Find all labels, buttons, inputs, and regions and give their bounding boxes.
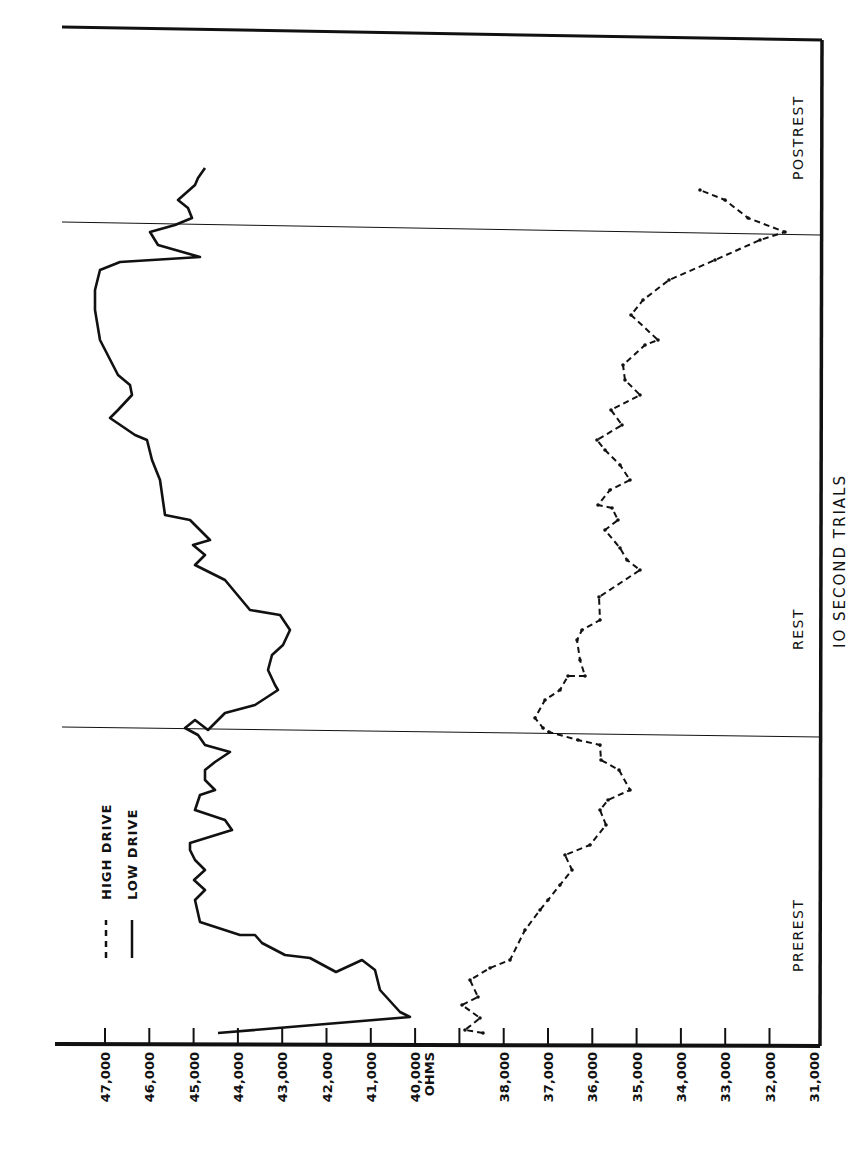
value-tick-label: 36,000: [585, 1052, 600, 1102]
data-point-marker: [618, 463, 622, 467]
value-tick-label: 38,000: [497, 1052, 512, 1102]
data-point-marker: [667, 278, 671, 282]
data-point-marker: [629, 313, 633, 317]
divider-prerest-rest: [62, 727, 820, 737]
value-tick-label: 34,000: [674, 1052, 689, 1102]
data-point-marker: [478, 1016, 482, 1020]
data-point-marker: [468, 978, 472, 982]
value-tick-label: 45,000: [187, 1052, 202, 1102]
data-point-marker: [606, 798, 610, 802]
data-point-marker: [580, 628, 584, 632]
data-point-marker: [597, 595, 601, 599]
value-axis-unit-label: OHMS: [422, 1052, 437, 1096]
data-point-marker: [620, 423, 624, 427]
value-tick-label: 33,000: [718, 1052, 733, 1102]
data-point-marker: [460, 1003, 464, 1007]
value-tick-label: 42,000: [320, 1052, 335, 1102]
data-point-marker: [538, 908, 542, 912]
data-point-marker: [638, 393, 642, 397]
frame-right-axis: [820, 40, 822, 1046]
data-point-marker: [547, 730, 551, 734]
phase-label-prerest: PREREST: [790, 898, 806, 972]
data-point-marker: [570, 868, 574, 872]
value-axis-tick-labels: 47,00046,00045,00044,00043,00042,00041,0…: [98, 1052, 822, 1102]
data-point-marker: [599, 758, 603, 762]
data-point-marker: [558, 883, 562, 887]
value-tick-label: 43,000: [275, 1052, 290, 1102]
series-high-drive-markers: [460, 188, 787, 1035]
data-point-marker: [609, 408, 613, 412]
data-point-marker: [603, 528, 607, 532]
legend-low-label: LOW DRIVE: [125, 809, 140, 900]
data-point-marker: [638, 568, 642, 572]
frame-left: [58, 27, 62, 1044]
data-point-marker: [576, 738, 580, 742]
data-point-marker: [598, 743, 602, 747]
value-tick-label: 35,000: [630, 1052, 645, 1102]
data-point-marker: [621, 363, 625, 367]
value-tick-label: 40,000: [408, 1052, 423, 1102]
value-tick-label: 41,000: [364, 1052, 379, 1102]
data-point-marker: [595, 438, 599, 442]
data-point-marker: [643, 343, 647, 347]
data-point-marker: [476, 995, 480, 999]
data-point-marker: [758, 238, 762, 242]
phase-label-rest: REST: [790, 608, 806, 650]
data-point-marker: [598, 808, 602, 812]
data-point-marker: [625, 558, 629, 562]
data-point-marker: [698, 188, 702, 192]
data-point-marker: [610, 506, 614, 510]
data-point-marker: [546, 898, 550, 902]
data-point-marker: [623, 378, 627, 382]
data-point-marker: [588, 843, 592, 847]
data-point-marker: [463, 1028, 467, 1032]
phase-label-postrest: POSTREST: [790, 95, 806, 180]
data-point-marker: [566, 674, 570, 678]
data-point-marker: [616, 518, 620, 522]
data-point-marker: [523, 928, 527, 932]
data-point-marker: [656, 338, 660, 342]
data-point-marker: [583, 674, 587, 678]
data-point-marker: [533, 716, 537, 720]
chart-frame: [55, 27, 822, 1046]
resistance-chart: 47,00046,00045,00044,00043,00042,00041,0…: [0, 0, 850, 1160]
data-point-marker: [481, 1031, 485, 1035]
value-tick-label: 32,000: [763, 1052, 778, 1102]
value-tick-label: 47,000: [98, 1052, 113, 1102]
data-point-marker: [558, 688, 562, 692]
data-point-marker: [617, 768, 621, 772]
data-point-marker: [604, 823, 608, 827]
data-point-marker: [578, 658, 582, 662]
data-point-marker: [723, 198, 727, 202]
data-point-marker: [508, 958, 512, 962]
data-point-marker: [563, 853, 567, 857]
frame-top: [62, 27, 822, 40]
value-tick-label: 37,000: [541, 1052, 556, 1102]
data-point-marker: [628, 788, 632, 792]
data-point-marker: [628, 478, 632, 482]
legend: HIGH DRIVE LOW DRIVE: [99, 804, 140, 958]
data-point-marker: [603, 448, 607, 452]
data-point-marker: [541, 726, 545, 730]
data-point-marker: [618, 546, 622, 550]
data-point-marker: [746, 216, 750, 220]
data-point-marker: [641, 298, 645, 302]
data-point-marker: [596, 503, 600, 507]
data-point-marker: [783, 230, 787, 234]
series-low-drive-line: [95, 168, 410, 1033]
data-point-marker: [575, 638, 579, 642]
x-axis-title: IO SECOND TRIALS: [831, 474, 849, 648]
data-point-marker: [488, 966, 492, 970]
value-axis: [55, 1044, 820, 1046]
value-tick-label: 44,000: [231, 1052, 246, 1102]
value-tick-label: 46,000: [142, 1052, 157, 1102]
data-point-marker: [608, 488, 612, 492]
data-point-marker: [598, 618, 602, 622]
data-point-marker: [713, 258, 717, 262]
value-tick-label: 31,000: [807, 1052, 822, 1102]
data-point-marker: [543, 698, 547, 702]
legend-high-label: HIGH DRIVE: [99, 804, 114, 900]
series-high-drive-line: [462, 190, 785, 1033]
